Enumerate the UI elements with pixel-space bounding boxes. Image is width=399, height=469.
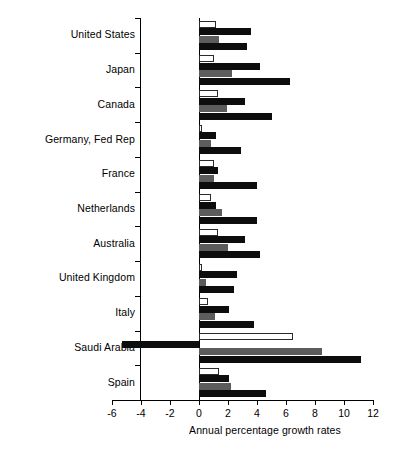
bar [199, 209, 222, 216]
x-axis-title: Annual percentage growth rates [140, 424, 390, 436]
bar [199, 383, 231, 390]
value-tick-label: 6 [271, 407, 301, 419]
value-tick-label: 2 [213, 407, 243, 419]
bar [199, 313, 215, 320]
bar [199, 113, 272, 120]
bar [199, 244, 228, 251]
bar [199, 217, 257, 224]
value-tick [170, 400, 171, 405]
bar [199, 140, 211, 147]
value-tick [344, 400, 345, 405]
bar [199, 375, 229, 382]
bar [199, 182, 257, 189]
value-tick [373, 400, 374, 405]
bar [199, 90, 218, 97]
value-tick-label: -6 [97, 407, 127, 419]
bar [199, 28, 251, 35]
bar [199, 167, 218, 174]
category-label: United Kingdom [0, 272, 135, 283]
bar [199, 43, 247, 50]
bar [199, 279, 206, 286]
bar [199, 298, 208, 305]
value-tick-label: 8 [300, 407, 330, 419]
value-tick [315, 400, 316, 405]
value-tick [286, 400, 287, 405]
bar [199, 348, 322, 355]
bar [199, 194, 211, 201]
bar [199, 78, 290, 85]
value-tick-label: 4 [242, 407, 272, 419]
category-label: Japan [0, 64, 135, 75]
plot-area [140, 18, 380, 400]
bar-chart: United StatesJapanCanadaGermany, Fed Rep… [0, 0, 399, 469]
value-tick [141, 400, 142, 405]
category-label: Netherlands [0, 203, 135, 214]
bar [199, 70, 232, 77]
bar [199, 175, 214, 182]
value-tick-label: 0 [184, 407, 214, 419]
bar [199, 264, 202, 271]
bar [199, 251, 260, 258]
bar [199, 321, 254, 328]
value-tick [257, 400, 258, 405]
category-label: Germany, Fed Rep [0, 134, 135, 145]
category-axis-labels: United StatesJapanCanadaGermany, Fed Rep… [0, 18, 135, 400]
bar [199, 21, 216, 28]
value-axis-line [112, 400, 373, 401]
bar [199, 286, 234, 293]
category-label: Saudi Arabia [0, 342, 135, 353]
value-tick [228, 400, 229, 405]
bar [122, 341, 199, 348]
bar [199, 132, 216, 139]
bar [199, 333, 293, 340]
bar [199, 306, 229, 313]
category-label: Canada [0, 99, 135, 110]
bar [199, 202, 216, 209]
value-tick-label: -2 [155, 407, 185, 419]
category-label: Italy [0, 307, 135, 318]
bar [199, 63, 260, 70]
value-tick-label: 10 [329, 407, 359, 419]
category-label: Spain [0, 377, 135, 388]
category-label: Australia [0, 238, 135, 249]
category-label: France [0, 168, 135, 179]
bar [199, 98, 245, 105]
bar [199, 390, 266, 397]
bar [199, 229, 218, 236]
bar [199, 368, 219, 375]
bar [199, 236, 245, 243]
bar [199, 36, 219, 43]
bar [199, 271, 237, 278]
bar [199, 55, 214, 62]
bar [199, 147, 241, 154]
value-tick-label: 12 [358, 407, 388, 419]
bar [199, 125, 202, 132]
bar [199, 105, 227, 112]
value-tick [112, 400, 113, 405]
bar [199, 356, 361, 363]
bar [199, 160, 214, 167]
value-tick-label: -4 [126, 407, 156, 419]
category-label: United States [0, 29, 135, 40]
value-tick [199, 400, 200, 405]
